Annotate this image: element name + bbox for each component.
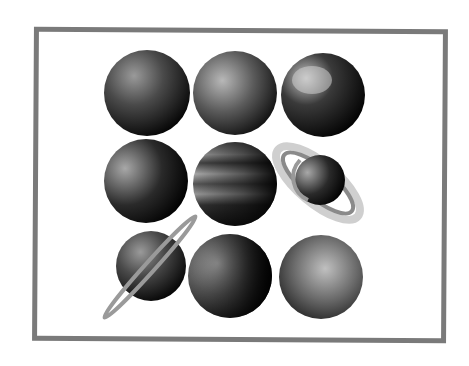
planet-6-ringed: [265, 134, 370, 231]
planet-3: [281, 53, 365, 137]
planet-4: [104, 139, 188, 223]
planet-8: [188, 234, 272, 318]
planet-5: [193, 142, 277, 226]
planet-7-ringed: [101, 213, 199, 321]
planet-9: [279, 235, 363, 319]
planets-illustration: [0, 0, 469, 366]
planet-1: [104, 50, 190, 136]
planet-2: [193, 51, 277, 135]
